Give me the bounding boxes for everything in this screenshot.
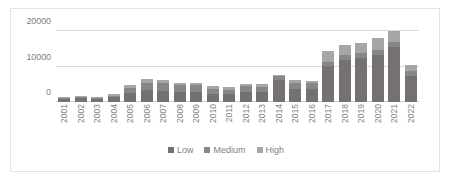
x-axis-tick-label: 2008 — [175, 104, 185, 123]
bar-segment-low[interactable] — [322, 66, 334, 102]
bar-segment-low[interactable] — [273, 80, 285, 102]
x-axis-tick-label: 2012 — [241, 104, 251, 123]
x-axis-tick-label: 2002 — [76, 104, 86, 123]
x-axis-tick-label: 2019 — [356, 104, 366, 123]
legend-swatch-icon — [204, 147, 210, 153]
x-axis-tick-label: 2009 — [191, 104, 201, 123]
x-axis-tick-label: 2018 — [340, 104, 350, 123]
bar-column[interactable] — [223, 87, 235, 102]
x-axis-tick-label: 2021 — [389, 104, 399, 123]
bar-column[interactable] — [405, 65, 417, 102]
bar-column[interactable] — [339, 45, 351, 102]
x-axis-tick-label: 2011 — [224, 104, 234, 122]
bar-segment-low[interactable] — [108, 97, 120, 102]
bar-segment-low[interactable] — [372, 55, 384, 102]
x-axis-tick-label: 2017 — [323, 104, 333, 123]
y-axis-tick-label: 20000 — [26, 16, 51, 26]
bar-segment-low[interactable] — [174, 92, 186, 102]
plot-area: 01000020000 — [56, 31, 419, 102]
x-axis-tick-label: 2016 — [307, 104, 317, 123]
bar-column[interactable] — [355, 43, 367, 102]
bar-segment-low[interactable] — [141, 90, 153, 102]
bar-segment-low[interactable] — [207, 94, 219, 102]
x-axis-tick-label: 2013 — [257, 104, 267, 123]
bar-column[interactable] — [322, 51, 334, 102]
legend-swatch-icon — [257, 147, 263, 153]
bar-column[interactable] — [190, 83, 202, 103]
bar-segment-low[interactable] — [91, 99, 103, 102]
legend-label: Low — [177, 145, 194, 155]
bar-column[interactable] — [108, 94, 120, 102]
bar-segment-low[interactable] — [405, 76, 417, 102]
bar-segment-medium[interactable] — [190, 85, 202, 92]
bar-segment-low[interactable] — [124, 93, 136, 102]
bar-column[interactable] — [256, 84, 268, 102]
bar-column[interactable] — [141, 79, 153, 102]
legend-item-high[interactable]: High — [257, 145, 285, 155]
bar-segment-low[interactable] — [355, 58, 367, 102]
x-axis-tick-label: 2015 — [290, 104, 300, 123]
bar-column[interactable] — [306, 81, 318, 102]
x-axis-tick-label: 2022 — [406, 104, 416, 123]
y-axis-tick-label: 0 — [46, 87, 51, 97]
bar-segment-low[interactable] — [75, 98, 87, 102]
legend-label: High — [266, 145, 285, 155]
x-axis-tick-label: 2020 — [373, 104, 383, 123]
bar-segment-low[interactable] — [157, 91, 169, 102]
bar-segment-low[interactable] — [223, 94, 235, 102]
bar-column[interactable] — [240, 84, 252, 102]
bar-segment-low[interactable] — [289, 89, 301, 102]
x-axis-tick-label: 2003 — [92, 104, 102, 123]
legend-item-low[interactable]: Low — [168, 145, 194, 155]
bar-column[interactable] — [124, 85, 136, 102]
bar-column[interactable] — [91, 97, 103, 102]
bar-column[interactable] — [207, 86, 219, 102]
x-axis-tick-label: 2005 — [125, 104, 135, 123]
x-axis-tick-label: 2004 — [109, 104, 119, 123]
chart-legend: LowMediumHigh — [11, 145, 441, 155]
x-axis-tick-label: 2006 — [142, 104, 152, 123]
bar-segment-high[interactable] — [388, 31, 400, 41]
legend-item-medium[interactable]: Medium — [204, 145, 245, 155]
bar-segment-high[interactable] — [322, 51, 334, 62]
bar-column[interactable] — [58, 97, 70, 102]
bar-segment-low[interactable] — [58, 99, 70, 102]
bar-column[interactable] — [75, 96, 87, 102]
bar-segment-low[interactable] — [256, 92, 268, 102]
legend-label: Medium — [213, 145, 245, 155]
bar-column[interactable] — [174, 83, 186, 102]
bar-segment-high[interactable] — [372, 38, 384, 49]
bar-segment-low[interactable] — [240, 92, 252, 102]
bar-column[interactable] — [289, 80, 301, 102]
bar-segment-low[interactable] — [306, 89, 318, 102]
bar-segment-medium[interactable] — [141, 83, 153, 90]
x-axis-tick-label: 2010 — [208, 104, 218, 123]
bar-segment-high[interactable] — [339, 45, 351, 55]
chart-container: 01000020000 2001200220032004200520062007… — [10, 8, 440, 172]
bar-segment-low[interactable] — [190, 92, 202, 102]
bar-column[interactable] — [372, 38, 384, 102]
legend-swatch-icon — [168, 147, 174, 153]
x-axis-tick-label: 2014 — [274, 104, 284, 123]
bar-series-group — [56, 31, 419, 102]
bar-column[interactable] — [273, 75, 285, 102]
bar-segment-low[interactable] — [388, 47, 400, 102]
y-axis-tick-label: 10000 — [26, 52, 51, 62]
bar-segment-high[interactable] — [355, 43, 367, 53]
x-axis-tick-label: 2007 — [158, 104, 168, 123]
bar-segment-medium[interactable] — [157, 83, 169, 90]
x-axis-labels: 2001200220032004200520062007200820092010… — [56, 104, 419, 144]
bar-column[interactable] — [388, 31, 400, 102]
x-axis-tick-label: 2001 — [59, 104, 69, 123]
bar-column[interactable] — [157, 80, 169, 102]
bar-segment-low[interactable] — [339, 60, 351, 102]
